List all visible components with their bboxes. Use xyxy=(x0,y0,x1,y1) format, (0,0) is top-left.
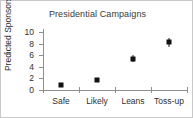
y-axis-line xyxy=(43,29,44,91)
y-tick: 2 xyxy=(39,78,43,79)
x-tick xyxy=(43,87,44,93)
y-tick-label: 8 xyxy=(29,39,34,49)
x-category-label: Toss-up xyxy=(154,96,184,106)
y-tick: 10 xyxy=(39,32,43,33)
y-axis-label: Predicted Sponsors xyxy=(3,0,13,72)
y-tick: 8 xyxy=(39,44,43,45)
x-tick xyxy=(115,87,116,93)
y-tick-label: 10 xyxy=(25,27,34,37)
y-tick-label: 0 xyxy=(29,85,34,95)
x-tick xyxy=(151,87,152,93)
data-point-marker xyxy=(131,56,136,61)
data-point-marker xyxy=(167,40,172,45)
y-tick: 6 xyxy=(39,55,43,56)
y-tick-label: 6 xyxy=(29,50,34,60)
x-category-label: Likely xyxy=(86,96,108,106)
chart-figure: Presidential Campaigns Predicted Sponsor… xyxy=(0,0,193,118)
chart-title: Presidential Campaigns xyxy=(1,9,193,19)
x-tick xyxy=(79,87,80,93)
y-tick-label: 4 xyxy=(29,62,34,72)
plot-area: 0246810 SafeLikelyLeansToss-up xyxy=(43,29,187,91)
x-category-label: Safe xyxy=(52,96,70,106)
x-tick xyxy=(187,87,188,93)
x-category-label: Leans xyxy=(121,96,144,106)
data-point-marker xyxy=(95,78,100,83)
data-point-marker xyxy=(59,83,64,88)
y-tick-label: 2 xyxy=(29,73,34,83)
y-tick: 4 xyxy=(39,67,43,68)
